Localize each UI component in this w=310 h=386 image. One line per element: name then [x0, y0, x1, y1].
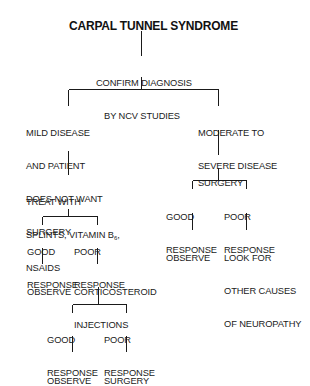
- node-text-line: TREAT WITH: [26, 197, 120, 208]
- node-look-for-other-causes: LOOK FOR OTHER CAUSES OF NEUROPATHY: [224, 231, 301, 352]
- node-text-line: GOOD: [47, 335, 98, 346]
- node-confirm-diagnosis: CONFIRM DIAGNOSIS BY NCV STUDIES: [96, 56, 188, 144]
- node-text-line: POOR: [104, 335, 155, 346]
- node-text-line: GOOD: [166, 212, 217, 223]
- node-surgery-left: SURGERY: [104, 354, 149, 386]
- node-text-line: BY NCV STUDIES: [96, 111, 188, 122]
- node-text-line: AND PATIENT: [26, 161, 103, 172]
- node-text-line: OBSERVE: [47, 376, 91, 386]
- node-text-line: SURGERY: [104, 376, 149, 386]
- node-text-line: MILD DISEASE: [26, 128, 103, 139]
- diagram-title: CARPAL TUNNEL SYNDROME: [69, 20, 238, 33]
- node-observe-1: OBSERVE: [27, 265, 71, 320]
- node-text-line: GOOD: [27, 247, 78, 258]
- node-text-line: LOOK FOR: [224, 253, 301, 264]
- node-text-line: OBSERVE: [166, 253, 210, 264]
- node-text-line: CONFIRM DIAGNOSIS: [96, 78, 188, 89]
- node-observe-2: OBSERVE: [47, 354, 91, 386]
- node-text-line: POOR: [224, 212, 275, 223]
- node-text-line: CORTICOSTEROID: [74, 287, 157, 298]
- node-text-line: OF NEUROPATHY: [224, 319, 301, 330]
- node-text-line: OTHER CAUSES: [224, 286, 301, 297]
- node-text-line: SURGERY: [198, 178, 243, 189]
- node-text-line: POOR: [74, 247, 125, 258]
- node-text-line: OBSERVE: [27, 287, 71, 298]
- node-text-line: MODERATE TO: [198, 128, 277, 139]
- node-observe-3: OBSERVE: [166, 231, 210, 286]
- flowchart-canvas: CARPAL TUNNEL SYNDROME CONFIRM DIAGNOSIS…: [0, 0, 310, 386]
